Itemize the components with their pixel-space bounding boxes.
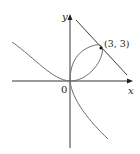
- folium-loop: [70, 45, 103, 81]
- y-axis-arrow-icon: [68, 14, 73, 20]
- point-label: (3, 3): [104, 38, 130, 49]
- x-axis-label: x: [128, 85, 134, 96]
- folium-lower-branch: [70, 81, 108, 139]
- folium-diagram: y x 0 (3, 3): [0, 0, 140, 154]
- x-axis-arrow-icon: [127, 79, 133, 84]
- y-axis-label: y: [61, 11, 68, 22]
- tangent-point: [99, 46, 102, 49]
- folium-left-branch: [12, 42, 70, 81]
- origin-label: 0: [61, 84, 67, 95]
